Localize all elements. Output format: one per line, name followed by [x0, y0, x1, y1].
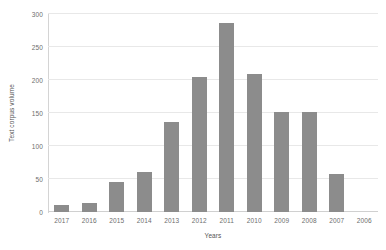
bar-slot: 2017 [48, 14, 76, 212]
y-axis-tick-label: 0 [39, 209, 43, 216]
bar-series: 2017201620152014201320122011201020092008… [48, 14, 378, 212]
bar[interactable] [137, 172, 152, 212]
bar-slot: 2013 [158, 14, 186, 212]
x-axis-tick-label: 2012 [192, 217, 207, 224]
x-axis-title: Years [48, 232, 378, 239]
bar[interactable] [302, 112, 317, 212]
bar[interactable] [109, 182, 124, 212]
plot-area: 050100150200250300 201720162015201420132… [48, 14, 378, 212]
bar-slot: 2011 [213, 14, 241, 212]
bar-slot: 2007 [323, 14, 351, 212]
x-axis-tick-label: 2016 [82, 217, 97, 224]
x-axis-tick-label: 2010 [247, 217, 262, 224]
bar[interactable] [82, 203, 97, 212]
x-axis-tick-label: 2006 [357, 217, 372, 224]
bar[interactable] [54, 205, 69, 212]
bar-slot: 2010 [241, 14, 269, 212]
bar-slot: 2012 [186, 14, 214, 212]
bar[interactable] [164, 122, 179, 212]
y-axis-tick-label: 150 [32, 110, 43, 117]
x-axis-tick-label: 2007 [329, 217, 344, 224]
x-axis-tick-label: 2008 [302, 217, 317, 224]
bar[interactable] [329, 174, 344, 212]
y-axis-tick-label: 300 [32, 11, 43, 18]
bar-slot: 2008 [296, 14, 324, 212]
bar-slot: 2006 [351, 14, 379, 212]
bar-slot: 2014 [131, 14, 159, 212]
chart-page: Text corpus volume 050100150200250300 20… [0, 0, 386, 250]
bar[interactable] [274, 112, 289, 212]
x-axis-tick-label: 2015 [109, 217, 124, 224]
x-axis-tick-label: 2009 [274, 217, 289, 224]
y-axis-tick-label: 50 [36, 176, 43, 183]
bar[interactable] [192, 77, 207, 212]
y-axis-tick-label: 200 [32, 77, 43, 84]
x-axis-tick-label: 2017 [54, 217, 69, 224]
y-axis-title: Text corpus volume [8, 84, 15, 142]
x-axis-tick-label: 2011 [220, 217, 234, 224]
bar-slot: 2016 [76, 14, 104, 212]
bar-slot: 2009 [268, 14, 296, 212]
y-axis-tick-label: 250 [32, 44, 43, 51]
bar[interactable] [247, 74, 262, 212]
y-axis-tick-label: 100 [32, 143, 43, 150]
x-axis-tick-label: 2014 [137, 217, 152, 224]
bar-slot: 2015 [103, 14, 131, 212]
bar[interactable] [219, 23, 234, 212]
x-axis-tick-label: 2013 [164, 217, 179, 224]
